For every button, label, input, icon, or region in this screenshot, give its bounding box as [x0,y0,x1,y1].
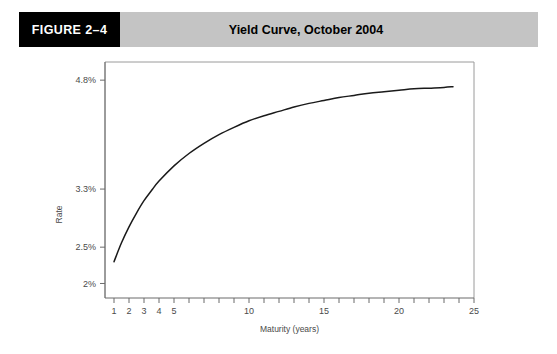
y-axis-title: Rate [54,205,64,223]
figure-title-container: Yield Curve, October 2004 [120,12,538,47]
x-tick-label: 15 [319,306,329,316]
x-tick-label: 10 [244,306,254,316]
yield-curve-path [114,87,453,262]
figure-number-box: FIGURE 2–4 [19,12,120,47]
y-tick-label: 2.5% [75,242,96,252]
x-axis-title: Maturity (years) [260,324,319,334]
x-tick-label: 25 [469,306,479,316]
axis-titles: Maturity (years)Rate [54,205,319,334]
x-axis-ticks: 1234510152025 [111,298,479,316]
x-tick-label: 4 [156,306,161,316]
figure-number-label: FIGURE 2–4 [32,23,108,37]
figure-title-text: Yield Curve, October 2004 [229,23,383,37]
yield-curve-line [114,87,453,262]
y-tick-label: 2% [83,279,96,289]
y-axis-ticks: 4.8%3.3%2.5%2% [75,75,105,288]
x-tick-label: 1 [111,306,116,316]
x-tick-label: 3 [141,306,146,316]
yield-curve-chart: 4.8%3.3%2.5%2% 1234510152025 Maturity (y… [0,47,557,354]
figure-header-band: FIGURE 2–4 Yield Curve, October 2004 [19,12,538,47]
x-tick-label: 5 [171,306,176,316]
x-tick-label: 2 [126,306,131,316]
chart-plot-area: 4.8%3.3%2.5%2% 1234510152025 Maturity (y… [0,47,557,354]
y-tick-label: 3.3% [75,184,96,194]
x-tick-label: 20 [394,306,404,316]
y-tick-label: 4.8% [75,75,96,85]
